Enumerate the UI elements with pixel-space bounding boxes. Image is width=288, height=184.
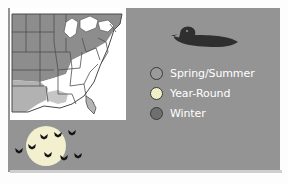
flying-geese-scene [14, 124, 118, 168]
legend-label-spring-summer: Spring/Summer [170, 67, 255, 80]
duck-silhouette-icon [160, 22, 240, 58]
range-map[interactable] [10, 8, 126, 120]
duck-eye [186, 30, 188, 32]
legend-label-winter: Winter [170, 107, 206, 120]
legend-item-year-round[interactable]: Year-Round [150, 84, 280, 102]
legend-swatch-year-round [150, 87, 163, 100]
panel-drop-shadow [10, 170, 282, 173]
legend-item-winter[interactable]: Winter [150, 104, 280, 122]
infographic-canvas: Spring/Summer Year-Round Winter [0, 0, 288, 184]
legend-item-spring-summer[interactable]: Spring/Summer [150, 64, 280, 82]
legend-swatch-winter [150, 107, 163, 120]
legend: Spring/Summer Year-Round Winter [150, 64, 280, 124]
moon-disc [26, 126, 66, 166]
legend-label-year-round: Year-Round [170, 87, 230, 100]
duck-body [171, 26, 238, 47]
legend-swatch-spring-summer [150, 67, 163, 80]
